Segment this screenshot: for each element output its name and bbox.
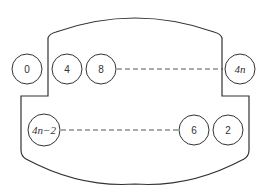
node-4n: 4n	[225, 54, 255, 84]
node-label: 6	[191, 125, 197, 136]
node-label: 2	[225, 125, 231, 136]
node-label: 0	[24, 64, 30, 75]
node-2: 2	[213, 115, 243, 145]
node-label: 4n−2	[32, 124, 56, 136]
node-label: 4n	[235, 63, 247, 75]
node-0: 0	[12, 54, 42, 84]
node-6: 6	[179, 115, 209, 145]
node-4n-minus-2: 4n−2	[28, 114, 60, 146]
table-outline	[21, 18, 249, 184]
node-4: 4	[52, 54, 82, 84]
node-8: 8	[86, 54, 116, 84]
node-label: 4	[64, 64, 70, 75]
node-label: 8	[98, 64, 104, 75]
diagram-canvas: 0 4 8 4n 4n−2 6 2	[0, 0, 270, 188]
